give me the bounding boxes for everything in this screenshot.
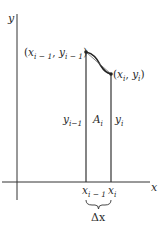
delta-x-label: Δx xyxy=(91,211,106,224)
right-tick-sub: i xyxy=(114,190,117,199)
left-point-x-sub: i − 1 xyxy=(34,52,52,61)
y-axis-label: y xyxy=(7,12,15,25)
delta-x-brace xyxy=(86,200,111,209)
left-point-y-sub: i − 1 xyxy=(65,52,83,61)
right-height-label: yi xyxy=(114,113,124,128)
area-sub: i xyxy=(101,119,104,128)
left-point-label: (xi − 1, yi − 1) xyxy=(24,46,87,61)
chord-segment xyxy=(86,52,111,74)
right-tick-label: xi xyxy=(108,184,117,199)
left-height-label: yi−1 xyxy=(62,113,82,128)
left-tick-label: xi − 1 xyxy=(82,184,106,199)
left-height-sub: i−1 xyxy=(69,119,82,128)
x-axis-label: x xyxy=(151,181,158,194)
right-height-sub: i xyxy=(121,119,124,128)
left-tick-sub: i − 1 xyxy=(88,190,106,199)
area-label: Ai xyxy=(92,113,104,128)
arc-length-diagram: y x (xi − 1, yi − 1) (xi, yi) yi−1 Ai yi… xyxy=(0,0,166,227)
right-point-label: (xi, yi) xyxy=(113,68,145,83)
